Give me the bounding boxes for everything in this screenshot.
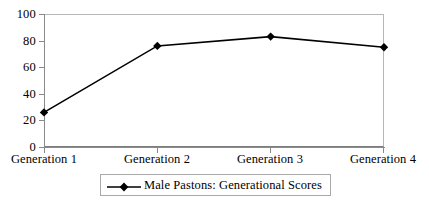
y-axis-label-80: 80 xyxy=(23,35,36,48)
y-axis-tick xyxy=(39,94,44,95)
legend-entry-label: Male Pastons: Generational Scores xyxy=(144,179,322,192)
y-axis-tick xyxy=(39,67,44,68)
legend-marker-sample xyxy=(107,179,141,191)
y-axis-tick xyxy=(39,14,44,15)
y-axis-label-100: 100 xyxy=(17,8,36,21)
legend: Male Pastons: Generational Scores xyxy=(100,174,331,196)
y-axis-label-40: 40 xyxy=(23,88,36,101)
y-axis-label-20: 20 xyxy=(23,114,36,127)
y-axis-tick xyxy=(39,41,44,42)
x-axis-label-generation-2: Generation 2 xyxy=(113,152,201,166)
x-axis-line xyxy=(44,147,385,148)
y-axis-label-60: 60 xyxy=(23,61,36,74)
diamond-marker-icon xyxy=(107,181,141,193)
plot-area xyxy=(44,14,384,147)
line-chart: 100 80 60 40 20 0 Generation 1 Generatio… xyxy=(0,0,429,209)
x-axis-label-generation-1: Generation 1 xyxy=(0,152,88,166)
y-axis-tick xyxy=(39,120,44,121)
y-axis-line xyxy=(44,14,45,148)
x-axis-label-generation-3: Generation 3 xyxy=(226,152,314,166)
x-axis-label-generation-4: Generation 4 xyxy=(339,152,427,166)
